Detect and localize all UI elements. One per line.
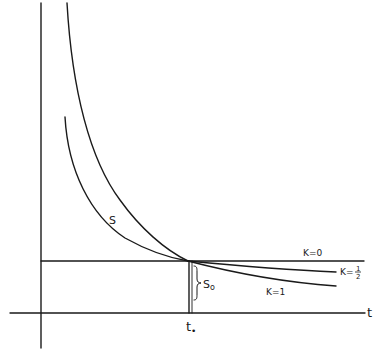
k-half-label: K= bbox=[340, 267, 353, 277]
k1-label: K=1 bbox=[266, 287, 285, 297]
diagram-canvas: S So t• t K=0 K= 1 2 K=1 bbox=[0, 0, 379, 357]
k-half-den: 2 bbox=[356, 273, 360, 281]
s-curve-label: S bbox=[109, 214, 116, 227]
outer-curve bbox=[67, 3, 188, 261]
t-axis-label: t bbox=[367, 305, 372, 320]
s0-brace bbox=[194, 266, 201, 300]
s-curve bbox=[65, 117, 188, 261]
s0-label: So bbox=[203, 278, 215, 292]
t0-label: t• bbox=[186, 319, 196, 336]
k0-label: K=0 bbox=[303, 248, 322, 258]
